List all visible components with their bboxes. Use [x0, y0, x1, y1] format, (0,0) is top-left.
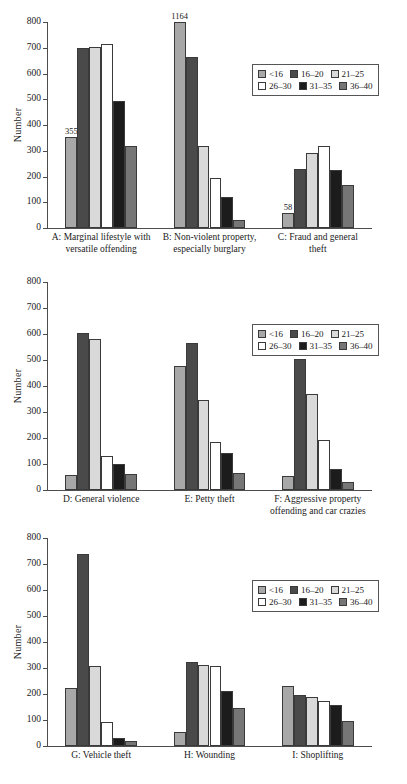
- bar: [89, 47, 101, 228]
- y-axis-tick: [43, 202, 47, 203]
- legend-item: 21–25: [331, 586, 365, 595]
- y-axis-tick: [43, 48, 47, 49]
- bar: [282, 476, 294, 490]
- legend-item: 36–40: [339, 598, 373, 607]
- legend-row: <1616–2021–25: [258, 68, 373, 80]
- y-axis-tick-label: 800: [27, 533, 41, 543]
- bar: [77, 554, 89, 746]
- x-axis: [47, 490, 372, 491]
- legend-swatch-icon: [339, 598, 347, 606]
- y-axis-tick: [43, 412, 47, 413]
- y-axis-tick-label: 600: [27, 69, 41, 79]
- bar: [198, 400, 210, 490]
- y-axis-tick: [43, 616, 47, 617]
- y-axis-tick: [43, 308, 47, 309]
- bar: [198, 146, 210, 228]
- bar: [282, 213, 294, 228]
- y-axis-tick-label: 800: [27, 17, 41, 27]
- plot-area: Number0100200300400500600700800D: Genera…: [0, 268, 407, 530]
- y-axis-tick: [43, 720, 47, 721]
- legend-swatch-icon: [299, 598, 307, 606]
- category-label-line: I: Shoplifting: [252, 750, 384, 762]
- legend-item: <16: [258, 586, 283, 595]
- category-label-line: C: Fraud and general: [252, 232, 384, 244]
- legend-label: 26–30: [269, 598, 292, 607]
- bar: [318, 146, 330, 228]
- y-axis-label: Number: [12, 108, 23, 143]
- y-axis-tick-label: 200: [27, 689, 41, 699]
- bar: [306, 394, 318, 490]
- legend-swatch-icon: [331, 70, 339, 78]
- category-label-line: offending and car crazies: [252, 506, 384, 518]
- bar: [65, 475, 77, 490]
- y-axis-tick-label: 500: [27, 355, 41, 365]
- legend-swatch-icon: [331, 586, 339, 594]
- legend-item: <16: [258, 330, 283, 339]
- legend-item: 26–30: [258, 598, 292, 607]
- y-axis: [47, 22, 48, 228]
- y-axis-tick: [43, 668, 47, 669]
- y-axis-tick: [43, 746, 47, 747]
- bar: [77, 48, 89, 228]
- y-axis-tick: [43, 360, 47, 361]
- legend-label: 36–40: [350, 342, 373, 351]
- plot-area: Number0100200300400500600700800G: Vehicl…: [0, 530, 407, 784]
- y-axis-tick: [43, 22, 47, 23]
- legend-item: 36–40: [339, 342, 373, 351]
- legend-row: 26–3031–3536–40: [258, 80, 373, 92]
- bar: [210, 666, 222, 746]
- bar: [330, 469, 342, 490]
- legend-label: 26–30: [269, 342, 292, 351]
- legend: <1616–2021–2526–3031–3536–40: [252, 324, 379, 356]
- y-axis-tick-label: 400: [27, 120, 41, 130]
- legend-label: 31–35: [310, 82, 333, 91]
- bar: [65, 688, 77, 746]
- legend: <1616–2021–2526–3031–3536–40: [252, 64, 379, 96]
- bar: [101, 722, 113, 746]
- x-axis: [47, 228, 372, 229]
- y-axis-tick: [43, 694, 47, 695]
- y-axis-tick: [43, 151, 47, 152]
- legend-item: 21–25: [331, 330, 365, 339]
- y-axis-tick-label: 400: [27, 381, 41, 391]
- legend-label: 16–20: [301, 70, 324, 79]
- x-axis: [47, 746, 372, 747]
- bar: [221, 691, 233, 746]
- legend-label: 36–40: [350, 598, 373, 607]
- bar: [101, 456, 113, 490]
- legend-swatch-icon: [258, 586, 266, 594]
- y-axis-tick-label: 300: [27, 663, 41, 673]
- bar: [294, 169, 306, 228]
- bar: [306, 153, 318, 228]
- legend-item: 16–20: [290, 586, 324, 595]
- category-label-line: theft: [252, 244, 384, 256]
- y-axis-tick: [43, 282, 47, 283]
- legend-item: 26–30: [258, 342, 292, 351]
- y-axis-label: Number: [12, 625, 23, 660]
- legend-label: 31–35: [310, 342, 333, 351]
- bar: [330, 170, 342, 228]
- legend-item: 16–20: [290, 70, 324, 79]
- legend-label: <16: [269, 330, 283, 339]
- legend-label: 16–20: [301, 586, 324, 595]
- category-label-line: F: Aggressive property: [252, 494, 384, 506]
- legend-item: 31–35: [299, 598, 333, 607]
- y-axis-tick: [43, 334, 47, 335]
- y-axis-tick-label: 100: [27, 715, 41, 725]
- legend-swatch-icon: [258, 82, 266, 90]
- y-axis-tick: [43, 538, 47, 539]
- y-axis-tick-label: 500: [27, 95, 41, 105]
- bar: [174, 732, 186, 746]
- bar: [233, 473, 245, 490]
- y-axis-tick: [43, 490, 47, 491]
- legend-swatch-icon: [258, 342, 266, 350]
- legend-swatch-icon: [299, 82, 307, 90]
- bar: [233, 220, 245, 228]
- chart-panel-1: Number0100200300400500600700800355116458…: [0, 0, 407, 268]
- chart-panel-3: Number0100200300400500600700800G: Vehicl…: [0, 530, 407, 784]
- bar: [174, 366, 186, 490]
- category-label: C: Fraud and generaltheft: [252, 232, 384, 255]
- y-axis-tick-label: 700: [27, 43, 41, 53]
- bar-value-label: 355: [65, 127, 78, 136]
- y-axis-tick-label: 600: [27, 585, 41, 595]
